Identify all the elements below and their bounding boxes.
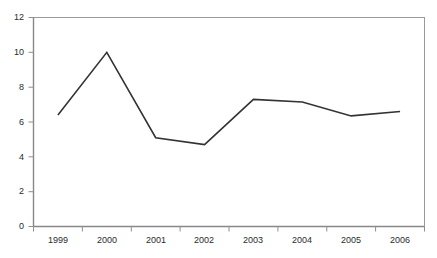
x-tick-label-2005: 2005 bbox=[331, 235, 371, 245]
x-tick-label-2003: 2003 bbox=[233, 235, 273, 245]
line-chart: 12 10 8 6 4 2 0 1999 2000 2001 2002 2003… bbox=[0, 0, 437, 258]
chart-plot-area bbox=[0, 0, 437, 258]
y-tick-label-4: 4 bbox=[2, 152, 24, 162]
y-tick-label-6: 6 bbox=[2, 117, 24, 127]
x-tick-label-2004: 2004 bbox=[282, 235, 322, 245]
x-tick-label-1999: 1999 bbox=[38, 235, 78, 245]
x-tick-label-2006: 2006 bbox=[380, 235, 420, 245]
x-axis-ticks bbox=[34, 227, 425, 232]
y-tick-label-12: 12 bbox=[2, 12, 24, 22]
y-tick-label-0: 0 bbox=[2, 221, 24, 231]
x-tick-label-2001: 2001 bbox=[136, 235, 176, 245]
x-tick-label-2000: 2000 bbox=[87, 235, 127, 245]
y-axis-ticks bbox=[29, 18, 34, 227]
y-tick-label-10: 10 bbox=[2, 47, 24, 57]
y-tick-label-8: 8 bbox=[2, 82, 24, 92]
x-tick-label-2002: 2002 bbox=[184, 235, 224, 245]
y-tick-label-2: 2 bbox=[2, 186, 24, 196]
